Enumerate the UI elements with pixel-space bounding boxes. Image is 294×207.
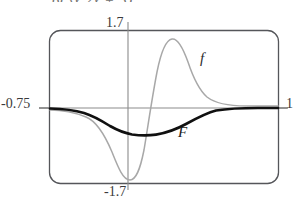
y-axis-tick-label-left: -0.75 (1, 96, 30, 112)
figure-panel: 6(3x 2x + 5) 1.7 -1.7 -0.75 1 f F (0, 0, 294, 207)
y-axis-tick-label-right: 1 (286, 96, 293, 112)
curve-label-F: F (178, 124, 187, 141)
x-axis-tick-label-bottom: -1.7 (104, 184, 126, 200)
curve-F (50, 108, 278, 135)
plot-canvas (0, 0, 294, 207)
curve-label-f: f (200, 50, 204, 67)
x-axis-tick-label-top: 1.7 (106, 15, 124, 31)
